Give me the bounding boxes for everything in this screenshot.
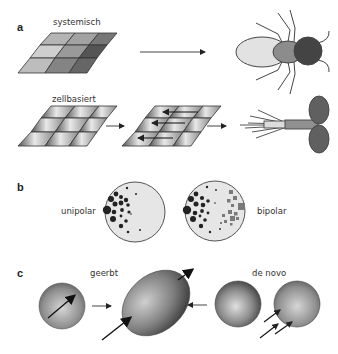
inherited-sphere [39,283,85,329]
bipolar-cell [183,181,245,241]
figure-canvas: a systemisch [0,0,338,354]
unipolar-cell [103,182,165,242]
panel-label-a: a [17,21,24,33]
caption-geerbt: geerbt [90,268,119,278]
caption-de-novo: de novo [252,268,286,278]
panel-c: c geerbt de novo [17,257,320,349]
caption-bipolar: bipolar [257,206,287,216]
panel-label-c: c [17,267,23,279]
cellbased-grid-start [18,106,117,146]
insect-icon [236,10,329,94]
panel-a: a systemisch [17,10,329,153]
de-novo-sphere-2 [260,281,320,338]
caption-systemisch: systemisch [53,17,101,27]
panel-label-b: b [17,181,24,193]
caption-zellbasiert: zellbasiert [52,94,97,104]
systemic-grid [18,33,117,73]
hair-cell-icon [240,96,329,153]
de-novo-sphere-1 [215,281,261,327]
panel-b: b unipolar [17,181,287,242]
caption-unipolar: unipolar [61,206,96,216]
